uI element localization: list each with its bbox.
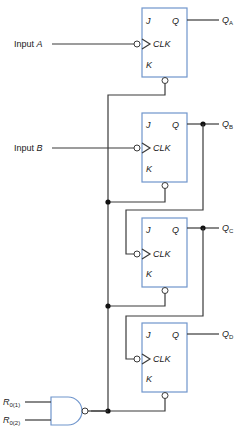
- reset-inversion-bubble: [162, 78, 168, 84]
- reset-inversion-bubble: [162, 288, 168, 294]
- ff-d-q-pin: Q: [172, 330, 179, 340]
- qc-label: QC: [222, 223, 234, 234]
- reset-inversion-bubble: [162, 183, 168, 189]
- qd-label: QD: [222, 329, 234, 340]
- ripple-counter-diagram: J Q CLK K Input A QA J Q CLK K Input B Q…: [0, 0, 240, 427]
- flip-flop-c: J Q CLK K: [134, 218, 187, 294]
- ff-b-clk-pin: CLK: [153, 143, 172, 153]
- ff-b-q-pin: Q: [172, 120, 179, 130]
- qb-label: QB: [222, 119, 233, 130]
- clk-inversion-bubble: [134, 356, 140, 362]
- clk-inversion-bubble: [134, 41, 140, 47]
- ff-a-clk-pin: CLK: [153, 39, 172, 49]
- reset-inversion-bubble: [162, 393, 168, 399]
- ff-b-j-pin: J: [145, 120, 151, 130]
- flip-flop-b: J Q CLK K: [134, 113, 187, 189]
- flip-flop-d: J Q CLK K: [134, 323, 187, 399]
- bus-junction-dot: [105, 303, 110, 308]
- ff-d-clk-pin: CLK: [153, 354, 172, 364]
- reset-1-label: R0(1): [3, 397, 20, 408]
- ff-c-j-pin: J: [145, 225, 151, 235]
- ff-c-clk-pin: CLK: [153, 249, 172, 259]
- ff-d-j-pin: J: [145, 330, 151, 340]
- ff-c-q-pin: Q: [172, 225, 179, 235]
- ff-c-k-pin: K: [146, 269, 153, 279]
- ff-b-k-pin: K: [146, 164, 153, 174]
- ff-a-j-pin: J: [145, 16, 151, 26]
- input-b-label: Input B: [14, 143, 43, 153]
- flip-flop-a: J Q CLK K: [134, 8, 187, 84]
- reset-bus-to-ff-c: [108, 294, 165, 307]
- reset-2-label: R0(2): [3, 415, 20, 426]
- clk-inversion-bubble: [134, 145, 140, 151]
- reset-bus-to-ff-d: [91, 399, 165, 412]
- nand-gate-body: [51, 397, 82, 425]
- ff-d-k-pin: K: [146, 374, 153, 384]
- ff-a-q-pin: Q: [172, 16, 179, 26]
- input-a-label: Input A: [14, 39, 43, 49]
- nand-output-bubble: [82, 408, 88, 414]
- reset-bus-to-ff-b: [108, 189, 165, 203]
- nand-gate: [51, 397, 108, 425]
- clk-inversion-bubble: [134, 251, 140, 257]
- bus-junction-dot: [105, 199, 110, 204]
- ff-a-k-pin: K: [146, 60, 153, 70]
- qa-label: QA: [222, 15, 233, 26]
